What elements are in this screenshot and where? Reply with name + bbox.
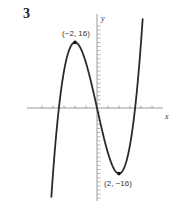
local-max-label: (−2, 16) (62, 29, 90, 38)
local-min-label: (2, −16) (104, 179, 132, 188)
cubic-function-graph: x y (−2, 16) (2, −16) (0, 0, 180, 206)
x-axis (27, 106, 163, 109)
y-axis-label: y (100, 14, 105, 23)
x-axis-label: x (164, 112, 169, 121)
